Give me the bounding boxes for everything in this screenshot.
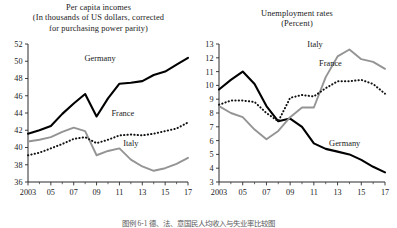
y-tick-label: 42	[14, 126, 22, 135]
chart-svg-right: 345678910111213200305070911131517ItalyFr…	[197, 38, 397, 206]
series-line-italy	[28, 128, 188, 171]
x-tick-label: 17	[381, 188, 389, 197]
y-tick-label: 46	[14, 92, 22, 101]
y-tick-label: 44	[14, 109, 22, 118]
series-label-italy: Italy	[123, 139, 139, 148]
y-tick-label: 12	[205, 54, 213, 63]
plot-area-left: 363840424446485052200305070911131517Germ…	[0, 38, 197, 206]
series-line-germany	[28, 58, 188, 134]
x-tick-label: 11	[115, 188, 123, 197]
x-tick-label: 11	[310, 188, 318, 197]
x-tick-label: 05	[47, 188, 55, 197]
y-tick-label: 52	[14, 40, 22, 49]
x-tick-label: 2003	[20, 188, 36, 197]
x-tick-label: 2003	[211, 188, 227, 197]
plot-area-right: 345678910111213200305070911131517ItalyFr…	[197, 38, 397, 206]
chart-title-left-line1: Per capita incomes	[0, 3, 197, 13]
x-tick-label: 15	[161, 188, 169, 197]
series-label-germany: Germany	[329, 139, 361, 148]
figure-caption: 图例 6-1 德、法、意国民人均收入与失业率比较图	[0, 219, 397, 228]
chart-panel-unemployment-rates: Unemployment rates (Percent) 34567891011…	[197, 0, 397, 210]
y-tick-label: 3	[209, 178, 213, 187]
chart-panel-per-capita-incomes: Per capita incomes (In thousands of US d…	[0, 0, 197, 210]
y-tick-label: 9	[209, 95, 213, 104]
y-tick-label: 5	[209, 150, 213, 159]
x-tick-label: 17	[184, 188, 192, 197]
x-tick-label: 09	[286, 188, 294, 197]
series-label-italy: Italy	[307, 40, 323, 49]
x-tick-label: 15	[357, 188, 365, 197]
chart-title-left: Per capita incomes (In thousands of US d…	[0, 0, 197, 34]
chart-title-right: Unemployment rates (Percent)	[197, 0, 397, 30]
chart-title-right-line1: Unemployment rates	[197, 9, 397, 19]
chart-title-right-line2: (Percent)	[197, 19, 397, 29]
y-tick-label: 36	[14, 178, 22, 187]
x-tick-label: 09	[92, 188, 100, 197]
y-tick-label: 50	[14, 57, 22, 66]
chart-title-left-line3: for purchasing power parity)	[0, 24, 197, 34]
figure: Per capita incomes (In thousands of US d…	[0, 0, 397, 228]
y-tick-label: 11	[206, 68, 214, 77]
x-tick-label: 07	[70, 188, 78, 197]
y-tick-label: 40	[14, 143, 22, 152]
y-tick-label: 4	[209, 164, 213, 173]
y-tick-label: 13	[205, 40, 213, 49]
y-tick-label: 6	[209, 137, 213, 146]
x-tick-label: 13	[333, 188, 341, 197]
series-label-germany: Germany	[84, 54, 116, 63]
x-tick-label: 13	[138, 188, 146, 197]
series-line-france	[219, 80, 385, 121]
series-line-germany	[219, 72, 385, 173]
y-tick-label: 8	[209, 109, 213, 118]
y-tick-label: 48	[14, 74, 22, 83]
x-tick-label: 07	[262, 188, 270, 197]
series-label-france: France	[111, 109, 134, 118]
x-tick-label: 05	[239, 188, 247, 197]
y-tick-label: 38	[14, 161, 22, 170]
y-tick-label: 7	[209, 123, 213, 132]
chart-title-left-line2: (In thousands of US dollars, corrected	[0, 13, 197, 23]
y-tick-label: 10	[205, 81, 213, 90]
series-label-france: France	[319, 59, 342, 68]
chart-svg-left: 363840424446485052200305070911131517Germ…	[0, 38, 197, 206]
